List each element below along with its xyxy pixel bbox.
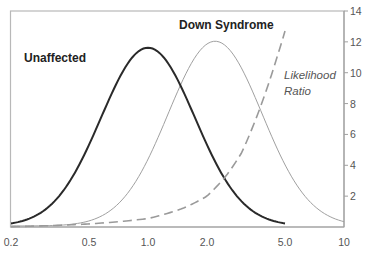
y-tick-label: 10 xyxy=(350,67,362,79)
likelihood-ratio-label-line1: Likelihood xyxy=(284,69,336,81)
y-tick-label: 12 xyxy=(350,36,362,48)
likelihood-ratio-label-line2: Ratio xyxy=(284,85,311,97)
y-tick-label: 4 xyxy=(350,159,356,171)
down-syndrome-label: Down Syndrome xyxy=(179,18,274,32)
right-y-axis-ticks: 2468101214 xyxy=(344,5,362,202)
y-tick-label: 6 xyxy=(350,128,356,140)
unaffected-curve xyxy=(11,48,285,224)
unaffected-label: Unaffected xyxy=(24,51,86,65)
x-tick-label: 10 xyxy=(338,236,350,248)
x-axis-ticks: 0.20.51.02.05.010 xyxy=(4,236,350,248)
x-tick-label: 0.2 xyxy=(4,236,19,248)
x-tick-label: 5.0 xyxy=(278,236,293,248)
x-tick-label: 2.0 xyxy=(200,236,215,248)
x-tick-label: 0.5 xyxy=(82,236,97,248)
y-tick-label: 14 xyxy=(350,5,362,17)
likelihood-ratio-chart: 0.20.51.02.05.010 2468101214 Unaffected … xyxy=(0,0,370,263)
x-tick-label: 1.0 xyxy=(141,236,156,248)
y-tick-label: 2 xyxy=(350,190,356,202)
y-tick-label: 8 xyxy=(350,98,356,110)
